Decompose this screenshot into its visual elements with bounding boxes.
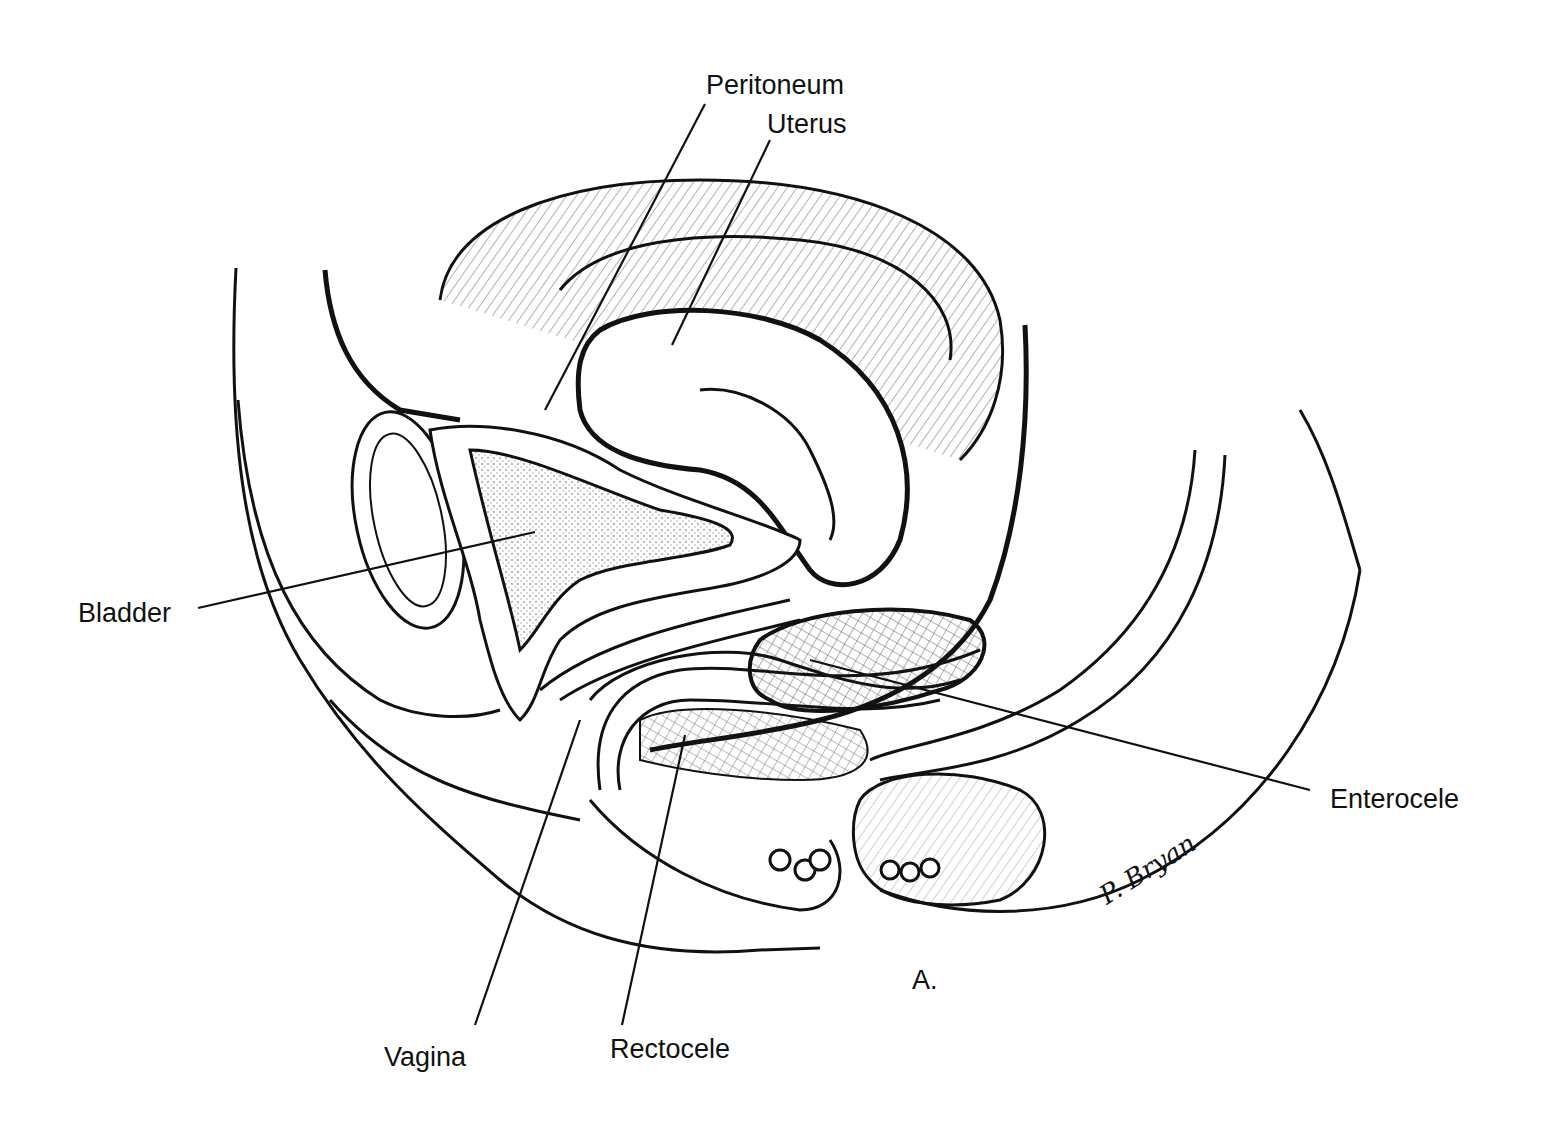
rectocele-shape [640,709,868,780]
anal-sphincter [770,774,1045,905]
anatomy-illustration [0,0,1558,1124]
label-peritoneum: Peritoneum [706,72,844,99]
panel-label: A. [912,967,938,994]
rectocele-leader [622,735,685,1025]
label-bladder: Bladder [78,600,171,627]
label-rectocele: Rectocele [610,1036,730,1063]
label-uterus: Uterus [767,111,847,138]
label-enterocele: Enterocele [1330,786,1459,813]
enterocele-leader [810,660,1310,790]
label-vagina: Vagina [384,1044,466,1071]
